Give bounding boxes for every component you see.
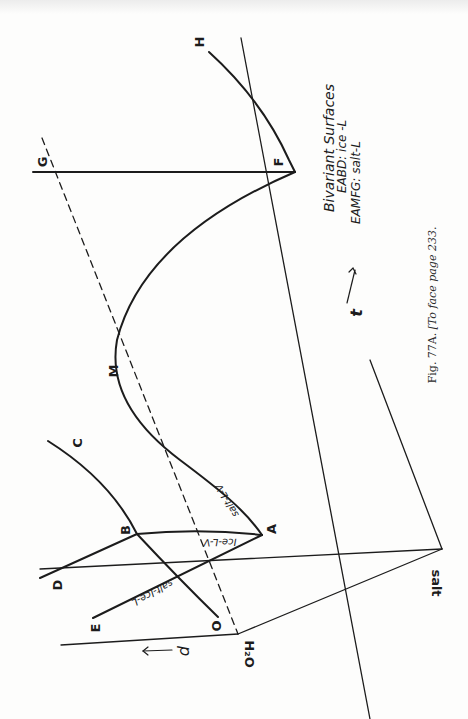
t-axis-line bbox=[241, 38, 370, 719]
label-salt-ice-l: salt-Ice-L bbox=[130, 578, 175, 609]
label-p-axis: p bbox=[176, 645, 195, 656]
label-o: O bbox=[209, 620, 224, 631]
label-ice-l-v: Ice-L-V bbox=[202, 537, 236, 549]
dashed-line-g-h2o bbox=[42, 138, 238, 634]
label-t-axis: t bbox=[347, 308, 366, 317]
line-d-b bbox=[40, 534, 137, 578]
label-a: A bbox=[264, 524, 279, 534]
curve-h-f bbox=[209, 52, 295, 172]
legend-line-2: EAMFG: salt-L bbox=[349, 141, 363, 224]
label-d: D bbox=[50, 579, 65, 590]
curve-f-m-a bbox=[115, 172, 295, 535]
label-h: H bbox=[192, 37, 207, 48]
label-g: G bbox=[35, 157, 50, 168]
edge-salt-to-d bbox=[40, 549, 442, 569]
figure-caption-note: [To face page 233. bbox=[426, 227, 439, 330]
label-e: E bbox=[88, 624, 103, 633]
label-b: B bbox=[118, 525, 133, 535]
t-arrow-shaft bbox=[347, 270, 355, 303]
legend-line-1: EABD: ice -L bbox=[335, 120, 349, 193]
label-salt: salt bbox=[429, 569, 444, 596]
curve-a-b bbox=[137, 531, 262, 535]
label-f: F bbox=[271, 158, 286, 167]
label-h2o: H₂O bbox=[242, 640, 257, 668]
label-salt-l-v: salt-L-V bbox=[213, 481, 241, 519]
phase-diagram: H G F M C B A D E O H₂O salt p t salt-L-… bbox=[0, 0, 468, 719]
t-arrow-head bbox=[349, 268, 356, 274]
label-c: C bbox=[70, 438, 85, 448]
edge-salt-to-t bbox=[370, 360, 442, 549]
p-arrow-shaft bbox=[143, 650, 172, 651]
label-m: M bbox=[106, 365, 121, 378]
figure-caption-number: Fig. 77A. bbox=[426, 333, 439, 384]
p-axis-line bbox=[61, 634, 238, 645]
book-page: H G F M C B A D E O H₂O salt p t salt-L-… bbox=[0, 0, 468, 719]
curve-c-b-o bbox=[48, 441, 218, 617]
